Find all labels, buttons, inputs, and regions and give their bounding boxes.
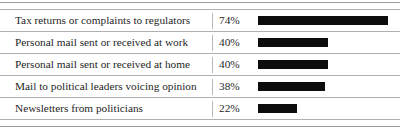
bar-fill	[258, 82, 325, 91]
column-divider	[212, 79, 213, 95]
bar-fill	[258, 104, 297, 113]
row-value: 74%	[219, 10, 240, 31]
table-row: Personal mail sent or received at home 4…	[0, 54, 400, 75]
table-row: Mail to political leaders voicing opinio…	[0, 76, 400, 97]
bar-track	[258, 54, 388, 75]
table-row: Personal mail sent or received at work 4…	[0, 32, 400, 53]
bar-fill	[258, 60, 328, 69]
bar-fill	[258, 38, 328, 47]
table-row: Tax returns or complaints to regulators …	[0, 10, 400, 31]
row-value: 22%	[219, 98, 240, 119]
bar-track	[258, 98, 388, 119]
table-bottom-rule	[0, 126, 400, 127]
row-label: Personal mail sent or received at work	[15, 32, 205, 53]
table-row: Newsletters from politicians 22%	[0, 98, 400, 119]
column-divider	[212, 101, 213, 117]
row-value: 38%	[219, 76, 240, 97]
bar-chart-table: Tax returns or complaints to regulators …	[0, 0, 400, 127]
row-label: Personal mail sent or received at home	[15, 54, 205, 75]
column-divider	[212, 13, 213, 29]
row-label: Newsletters from politicians	[15, 98, 205, 119]
bar-track	[258, 32, 388, 53]
row-label: Tax returns or complaints to regulators	[15, 10, 205, 31]
column-divider	[212, 35, 213, 51]
column-divider	[212, 57, 213, 73]
row-value: 40%	[219, 54, 240, 75]
bar-fill	[258, 16, 388, 25]
bar-track	[258, 76, 388, 97]
row-value: 40%	[219, 32, 240, 53]
row-label: Mail to political leaders voicing opinio…	[15, 76, 205, 97]
bar-track	[258, 10, 388, 31]
